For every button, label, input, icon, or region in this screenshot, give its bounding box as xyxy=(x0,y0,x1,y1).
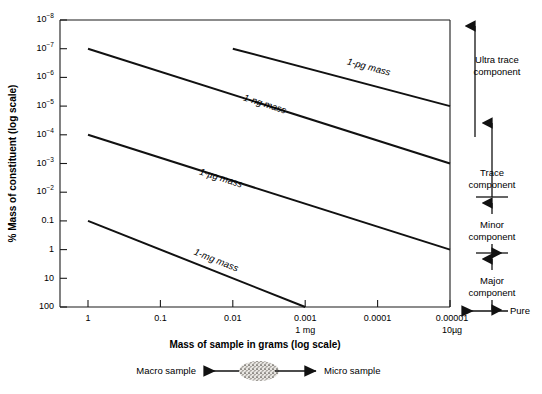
major-label-line1: Major xyxy=(480,275,504,286)
x-axis-ticks xyxy=(88,300,450,307)
y-tick-label: 10−2 xyxy=(37,184,55,196)
trace-label-line1: Trace xyxy=(480,167,504,178)
trace-label-line2: component xyxy=(468,179,515,190)
ultra-trace-label-line1: Ultra trace xyxy=(475,54,519,65)
major-label-line2: component xyxy=(468,287,515,298)
series-label-1-ng-mass: 1-ng mass xyxy=(242,92,288,116)
x-tick-label: 0.0001 xyxy=(364,313,392,323)
y-tick-label: 10 xyxy=(44,273,54,283)
x-tick-label: 1 xyxy=(85,313,90,323)
series-labels: 1-pg mass 1-ng mass 1-µg mass 1-mg mass xyxy=(192,56,392,274)
series-label-1-mg-mass: 1-mg mass xyxy=(192,246,240,274)
y-tick-label: 10−7 xyxy=(37,41,55,53)
series-line-1-mg-mass xyxy=(88,221,305,307)
x-tick-sublabel: 1 mg xyxy=(295,325,315,335)
minor-label-line2: component xyxy=(468,231,515,242)
x-tick-sublabel: 10µg xyxy=(442,325,462,335)
y-axis-tick-labels: 10−8 10−7 10−6 10−5 10−4 10−3 10−2 0.1 1… xyxy=(37,12,55,311)
y-tick-label: 0.1 xyxy=(41,215,54,225)
y-tick-label: 100 xyxy=(39,301,54,311)
x-tick-label: 0.01 xyxy=(224,313,242,323)
micro-sample-label: Micro sample xyxy=(324,365,381,376)
x-axis-tick-labels: 1 0.1 0.01 0.001 1 mg 0.0001 0.00001 10µ… xyxy=(85,313,468,335)
macro-sample-label: Macro sample xyxy=(136,365,196,376)
x-axis-title: Mass of sample in grams (log scale) xyxy=(169,339,340,350)
plot-frame xyxy=(60,20,450,307)
component-zone-annotations: Ultra trace component Trace component Mi… xyxy=(462,26,530,316)
x-tick-label: 0.001 xyxy=(294,313,317,323)
series-line-1-ug-mass xyxy=(88,135,450,250)
figure-root: 10−8 10−7 10−6 10−5 10−4 10−3 10−2 0.1 1… xyxy=(0,0,542,394)
y-axis-ticks xyxy=(60,20,67,307)
data-series-group xyxy=(88,49,450,307)
pure-label: Pure xyxy=(510,305,530,316)
y-tick-label: 10−6 xyxy=(37,70,55,82)
y-tick-label: 10−3 xyxy=(37,156,55,168)
sample-scale-legend: Macro sample Micro sample xyxy=(136,361,380,381)
speckled-sample-blob-icon xyxy=(239,361,279,381)
y-axis-title: % Mass of constituent (log scale) xyxy=(7,85,18,243)
ultra-trace-label-line2: component xyxy=(473,66,520,77)
y-tick-label: 10−8 xyxy=(37,12,55,24)
minor-label-line1: Minor xyxy=(480,219,504,230)
series-label-1-ug-mass: 1-µg mass xyxy=(198,166,244,190)
x-tick-label: 0.1 xyxy=(154,313,167,323)
y-tick-label: 10−4 xyxy=(37,127,55,139)
y-tick-label: 1 xyxy=(49,244,54,254)
series-label-1-pg-mass: 1-pg mass xyxy=(346,56,392,78)
chart-svg: 10−8 10−7 10−6 10−5 10−4 10−3 10−2 0.1 1… xyxy=(0,0,542,394)
x-tick-label: 0.00001 xyxy=(436,313,469,323)
y-tick-label: 10−5 xyxy=(37,98,55,110)
